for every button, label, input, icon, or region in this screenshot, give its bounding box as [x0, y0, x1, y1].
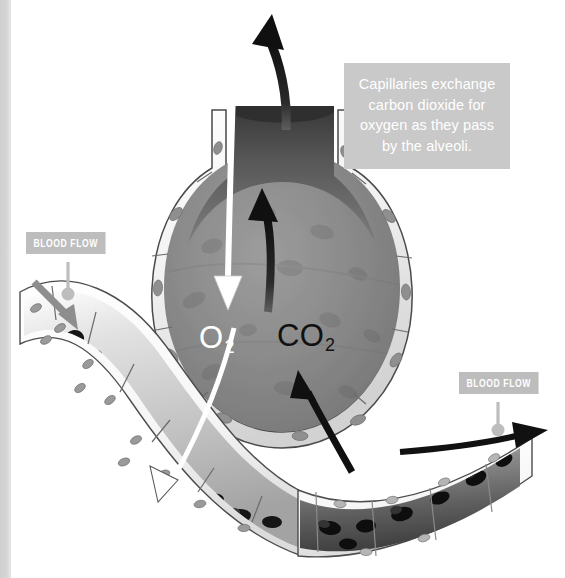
- oxygen-label: O2: [199, 322, 234, 353]
- capillary-outflow: [298, 438, 532, 557]
- carbon-dioxide-subscript: 2: [325, 335, 335, 355]
- oxygen-subscript: 2: [224, 337, 234, 357]
- carbon-dioxide-label: CO2: [277, 320, 334, 351]
- oxygen-formula: O: [199, 320, 223, 355]
- blood-flow-label-left: BLOOD FLOW: [26, 232, 105, 254]
- blood-flow-label-right: BLOOD FLOW: [459, 372, 538, 394]
- caption-panel: Capillaries exchange carbon dioxide for …: [344, 63, 510, 169]
- diagram-canvas: Capillaries exchange carbon dioxide for …: [0, 0, 565, 578]
- callout-leader-right: [492, 402, 505, 437]
- carbon-dioxide-formula: CO: [277, 318, 324, 353]
